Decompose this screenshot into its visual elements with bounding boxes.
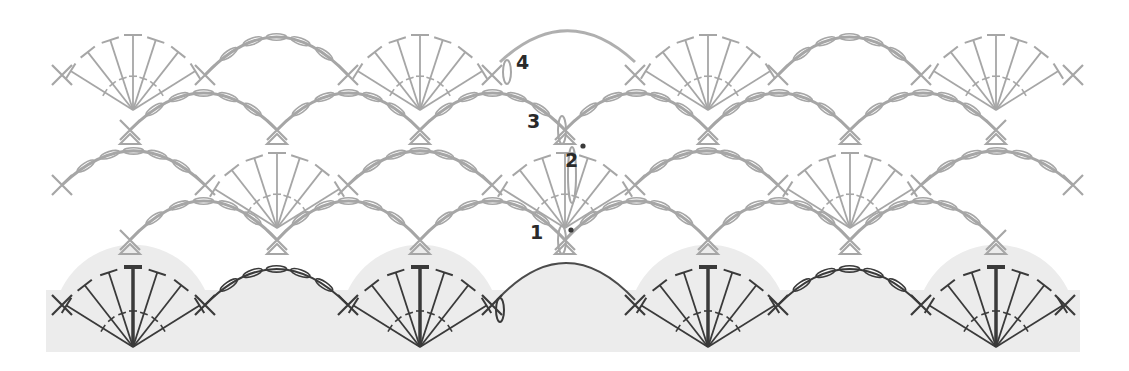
single-crochet-icon — [698, 120, 718, 140]
double-crochet-icon — [110, 40, 133, 110]
stitch-top-bar — [656, 47, 670, 58]
slip-stitch-dot-icon — [568, 227, 573, 232]
double-crochet-icon — [71, 71, 133, 110]
double-crochet-icon — [215, 189, 277, 228]
base-band — [46, 290, 1080, 352]
stitch-top-bar — [746, 47, 760, 58]
double-crochet-icon — [850, 189, 912, 228]
stitch-top-bar — [171, 47, 185, 58]
stitch-top-bar — [603, 165, 617, 176]
stitch-top-bar — [944, 47, 958, 58]
double-crochet-icon — [788, 189, 850, 228]
double-crochet-icon — [973, 40, 996, 110]
chain-arch — [565, 201, 708, 240]
stitch-top-bar — [513, 165, 527, 176]
double-crochet-icon — [420, 40, 443, 110]
single-crochet-icon — [768, 65, 788, 85]
double-crochet-icon — [397, 40, 420, 110]
stitch-top-bar — [798, 165, 812, 176]
chain-arch — [420, 93, 565, 130]
double-crochet-icon — [996, 71, 1058, 110]
single-crochet-icon — [625, 175, 645, 195]
stitch-top-bar — [498, 181, 508, 196]
row-label-2: 2 — [565, 151, 578, 170]
single-crochet-icon — [625, 65, 645, 85]
double-crochet-icon — [88, 52, 133, 110]
stitch-top-bar — [1034, 47, 1048, 58]
chain-arch — [348, 151, 492, 185]
single-crochet-icon — [267, 230, 287, 250]
single-crochet-icon — [911, 175, 931, 195]
chain-arch — [130, 201, 277, 240]
chain-arch — [420, 201, 565, 240]
single-crochet-icon — [1063, 65, 1083, 85]
row-label-1: 1 — [530, 223, 543, 242]
chain-arch — [277, 93, 420, 130]
single-crochet-icon — [482, 175, 502, 195]
chain-arch — [708, 93, 850, 130]
single-crochet-icon — [768, 175, 788, 195]
row-label-3: 3 — [527, 112, 540, 131]
stitch-top-bar — [888, 165, 902, 176]
single-crochet-icon — [267, 120, 287, 140]
double-crochet-icon — [708, 40, 731, 110]
single-crochet-icon — [840, 230, 860, 250]
chain-arch — [62, 151, 205, 185]
chain-start-oval-icon — [503, 60, 511, 84]
stitch-top-bar — [315, 165, 329, 176]
chain-arch — [850, 201, 996, 240]
stitch-top-bar — [368, 47, 382, 58]
stitch-top-bar — [81, 47, 95, 58]
single-crochet-icon — [1063, 175, 1083, 195]
stitch-top-bar — [225, 165, 239, 176]
stitch-top-bar — [458, 47, 472, 58]
single-crochet-icon — [195, 175, 215, 195]
chain-arch — [708, 201, 850, 240]
single-crochet-icon — [338, 175, 358, 195]
stitch-diagram-canvas — [0, 0, 1129, 371]
row-label-4: 4 — [516, 53, 529, 72]
double-crochet-icon — [133, 40, 156, 110]
single-crochet-icon — [986, 120, 1006, 140]
single-crochet-icon — [52, 175, 72, 195]
single-crochet-icon — [120, 120, 140, 140]
chain-arch — [565, 93, 708, 130]
chain-arch — [635, 151, 778, 185]
single-crochet-icon — [840, 120, 860, 140]
chain-arch — [921, 151, 1073, 185]
slip-stitch-dot-icon — [580, 143, 585, 148]
double-crochet-icon — [996, 52, 1041, 110]
chain-arch — [778, 37, 921, 75]
chain-arch — [205, 37, 348, 75]
double-crochet-icon — [996, 40, 1019, 110]
double-crochet-icon — [685, 40, 708, 110]
chain-arch — [277, 201, 420, 240]
single-crochet-icon — [410, 120, 430, 140]
single-crochet-icon — [911, 65, 931, 85]
stitch-top-bar — [1054, 63, 1064, 78]
chain-arch — [850, 93, 996, 130]
double-crochet-icon — [277, 189, 339, 228]
